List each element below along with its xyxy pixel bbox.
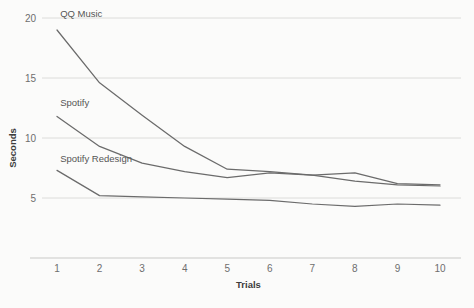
x-tick-label-1: 1: [54, 263, 60, 274]
x-tick-label-4: 4: [182, 263, 188, 274]
y-axis-title: Seconds: [7, 128, 18, 168]
y-tick-label-5: 5: [30, 193, 36, 204]
line-chart: 2015105SecondsQQ MusicSpotifySpotify Red…: [0, 0, 474, 308]
x-axis-title: Trials: [236, 279, 261, 290]
x-tick-label-6: 6: [267, 263, 273, 274]
x-tick-label-7: 7: [310, 263, 316, 274]
chart-canvas: 2015105SecondsQQ MusicSpotifySpotify Red…: [0, 0, 474, 308]
x-tick-label-10: 10: [434, 263, 446, 274]
x-tick-label-9: 9: [395, 263, 401, 274]
y-tick-label-10: 10: [25, 133, 37, 144]
x-tick-label-3: 3: [139, 263, 145, 274]
series-label-spotify: Spotify: [60, 97, 89, 108]
x-tick-label-8: 8: [352, 263, 358, 274]
y-tick-label-20: 20: [25, 13, 37, 24]
x-tick-label-2: 2: [97, 263, 103, 274]
y-tick-label-15: 15: [25, 73, 37, 84]
series-label-qq-music: QQ Music: [60, 8, 102, 19]
x-tick-label-5: 5: [224, 263, 230, 274]
series-label-spotify-redesign: Spotify Redesign: [60, 153, 132, 164]
series-line-spotify: [57, 116, 440, 184]
